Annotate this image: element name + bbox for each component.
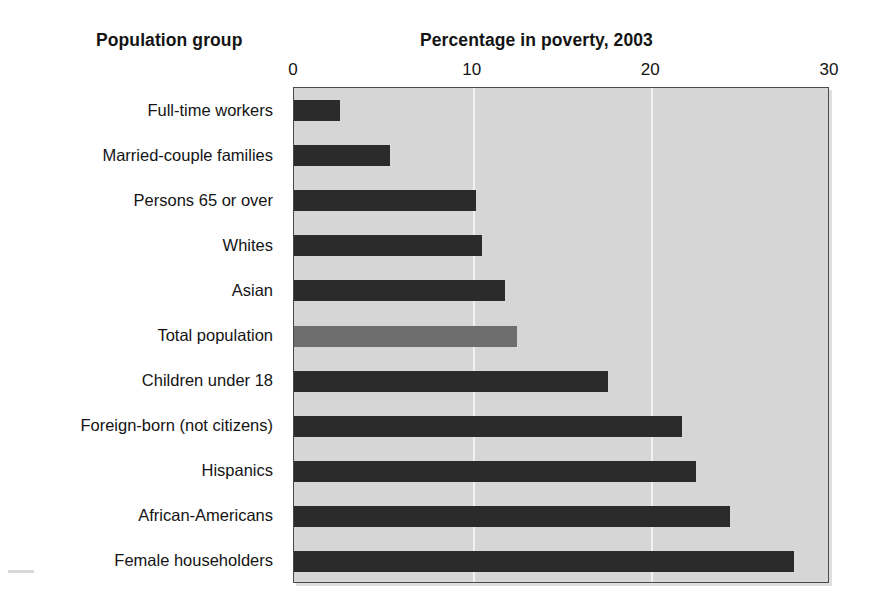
poverty-bar-chart: Population group Percentage in poverty, … [0,0,882,616]
category-label-female-householders: Female householders [114,551,273,570]
bar-asian [294,280,505,301]
category-label-asian: Asian [232,280,273,299]
bar-foreign-born-not-citizens [294,416,682,437]
category-label-african-americans: African-Americans [138,506,273,525]
scan-artifact [8,570,34,573]
category-label-married-couple-families: Married-couple families [102,145,273,164]
percentage-in-poverty-header: Percentage in poverty, 2003 [420,30,653,51]
bar-hispanics [294,461,696,482]
x-tick-0: 0 [288,60,297,80]
bars-layer [294,88,828,582]
category-label-total-population: Total population [157,326,273,345]
x-tick-30: 30 [820,60,839,80]
category-label-persons-65-or-over: Persons 65 or over [134,190,273,209]
category-label-children-under-18: Children under 18 [142,371,273,390]
category-label-foreign-born-not-citizens: Foreign-born (not citizens) [80,416,273,435]
category-label-whites: Whites [223,235,273,254]
bar-children-under-18 [294,371,608,392]
population-group-header: Population group [96,30,242,51]
bar-african-americans [294,506,730,527]
x-tick-20: 20 [641,60,660,80]
category-label-full-time-workers: Full-time workers [147,100,273,119]
x-tick-10: 10 [462,60,481,80]
bar-full-time-workers [294,100,340,121]
bar-total-population [294,326,517,347]
bar-whites [294,235,482,256]
bar-married-couple-families [294,145,390,166]
category-axis-labels: Full-time workersMarried-couple families… [0,87,283,583]
plot-area [293,87,829,583]
bar-persons-65-or-over [294,190,476,211]
bar-female-householders [294,551,794,572]
category-label-hispanics: Hispanics [201,461,273,480]
